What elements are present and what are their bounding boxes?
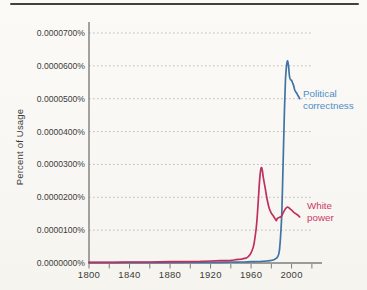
x-tick-label: 1840 [118,269,140,280]
y-tick-label: 0.0000500% [37,94,86,104]
y-tick-label: 0.0000000% [37,258,86,268]
series-line-white-power [89,168,300,263]
y-tick-label: 0.0000700% [37,28,86,38]
y-tick-label: 0.0000100% [37,225,86,235]
x-tick-label: 1880 [159,269,181,280]
x-tick-label: 1920 [199,269,221,280]
series-label-political-correctness: Political correctness [303,88,365,111]
x-tick-label: 2000 [280,269,302,280]
y-tick-label: 0.0000300% [37,159,86,169]
x-tick-label: 1960 [240,269,262,280]
x-tick-label: 1800 [78,269,100,280]
page: Percent of Usage 18001840188019201960200… [0,0,367,290]
series-line-political-correctness [89,61,300,263]
y-tick-label: 0.0000200% [37,192,86,202]
y-tick-label: 0.0000400% [37,127,86,137]
chart-canvas: 1800184018801920196020000.0000000%0.0000… [0,0,367,290]
series-label-white-power: White power [307,200,349,223]
y-tick-label: 0.0000600% [37,61,86,71]
